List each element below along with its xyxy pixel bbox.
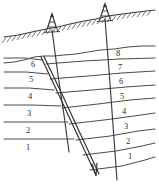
right-block-layer-boundaries: [46, 58, 155, 170]
ground-surface-line: [4, 10, 155, 37]
right-layer-boundary: [50, 71, 155, 79]
right-layer-label: 7: [118, 62, 122, 72]
well-bores: [52, 19, 117, 180]
right-layer-label: 8: [116, 48, 120, 58]
unconformity-surface: [4, 46, 155, 63]
left-layer-label: 2: [26, 125, 30, 135]
geological-cross-section-figure: 6 5 4 3 2 1 8 7 6 5 4 3 2 1: [0, 0, 159, 184]
left-layer-label: 1: [26, 142, 30, 152]
right-layer-label: 5: [120, 91, 124, 101]
ground-hatch-marks: [2, 10, 151, 43]
right-layer-boundary: [46, 58, 155, 64]
left-layer-label: 4: [28, 91, 33, 101]
right-block-labels: 8 7 6 5 4 3 2 1: [116, 48, 132, 161]
right-layer-label: 1: [128, 151, 132, 161]
right-layer-boundary: [62, 98, 155, 108]
derrick-left-crown: [50, 12, 54, 17]
left-layer-label: 6: [31, 59, 35, 69]
fault-plane: [41, 57, 99, 177]
right-layer-label: 2: [126, 136, 130, 146]
fault-line-primary: [41, 57, 96, 175]
right-layer-boundary: [76, 129, 155, 140]
left-layer-label: 3: [27, 108, 31, 118]
left-layer-boundary: [4, 105, 61, 106]
left-layer-boundary: [4, 72, 48, 74]
right-layer-label: 6: [119, 76, 123, 86]
left-layer-label: 5: [29, 74, 33, 84]
right-layer-label: 4: [122, 106, 127, 116]
fault-line-secondary: [44, 57, 99, 175]
right-layer-label: 3: [124, 121, 128, 131]
cross-section-canvas: 6 5 4 3 2 1 8 7 6 5 4 3 2 1: [0, 0, 159, 184]
right-layer-boundary: [56, 85, 155, 93]
well-bore-right: [105, 19, 117, 180]
right-layer-boundary: [83, 143, 155, 155]
left-layer-boundary: [4, 88, 54, 90]
right-layer-boundary: [90, 157, 155, 170]
ground-surface-group: [2, 10, 155, 43]
derrick-right-crown: [103, 2, 107, 7]
